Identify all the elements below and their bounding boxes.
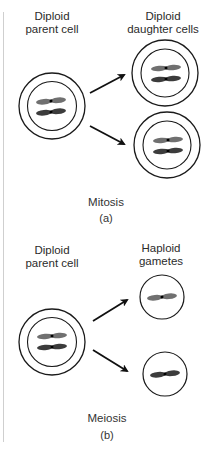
arrow-to-daughter-2 (90, 126, 124, 144)
mitosis-daughter-cell-2 (134, 112, 200, 178)
cell-division-diagram (0, 0, 210, 455)
chromosome (37, 332, 67, 340)
cell-membrane (19, 73, 85, 139)
cell-membrane (19, 309, 85, 375)
arrow-to-gamete-1 (93, 300, 127, 321)
nucleus (28, 318, 77, 367)
chromosome (36, 97, 66, 106)
nucleus (141, 49, 189, 97)
cell-membrane (132, 40, 198, 106)
meiosis-gamete-2 (143, 352, 187, 396)
chromosome (150, 370, 180, 379)
chromosome (153, 136, 183, 144)
chromosome (151, 75, 181, 83)
arrow-to-gamete-2 (93, 350, 127, 371)
chromosome (37, 343, 67, 351)
nucleus (143, 121, 191, 169)
chromosome (151, 64, 181, 72)
meiosis-parent-cell (19, 309, 85, 375)
mitosis-parent-cell (19, 73, 85, 139)
meiosis-gamete-1 (140, 275, 184, 319)
cell-membrane (134, 112, 200, 178)
mitosis-daughter-cell-1 (132, 40, 198, 106)
nucleus (28, 82, 77, 131)
chromosome (147, 293, 177, 302)
chromosome (153, 147, 183, 155)
arrow-to-daughter-1 (90, 75, 124, 93)
chromosome (36, 108, 66, 117)
